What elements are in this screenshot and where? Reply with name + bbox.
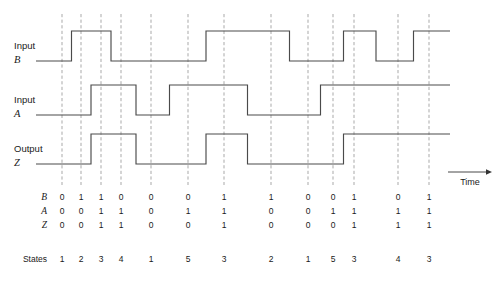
signal-kind-label-A: Input [14,94,35,105]
state-cell-8: 2 [269,254,274,264]
table-cell-Z-6: 0 [186,220,191,230]
table-cell-B-2: 1 [79,192,84,202]
table-cell-Z-2: 0 [79,220,84,230]
table-cell-B-9: 0 [306,192,311,202]
table-cell-B-11: 1 [352,192,357,202]
table-row-label-A: A [40,206,47,216]
state-cell-4: 4 [119,254,124,264]
table-cell-A-10: 1 [331,206,336,216]
table-cell-A-3: 1 [99,206,104,216]
table-cell-B-13: 1 [427,192,432,202]
time-axis-label: Time [460,177,480,187]
table-row-label-B: B [41,192,47,202]
table-cell-A-9: 0 [306,206,311,216]
table-cell-Z-3: 1 [99,220,104,230]
table-cell-B-10: 0 [331,192,336,202]
state-cell-13: 3 [427,254,432,264]
table-cell-B-5: 0 [149,192,154,202]
state-cell-5: 1 [149,254,154,264]
table-cell-Z-8: 0 [269,220,274,230]
states-row-label: States [23,254,47,264]
table-cell-B-4: 0 [119,192,124,202]
state-cell-9: 1 [306,254,311,264]
table-cell-Z-5: 0 [149,220,154,230]
state-cell-10: 5 [331,254,336,264]
state-cell-3: 3 [99,254,104,264]
table-cell-A-11: 1 [352,206,357,216]
table-cell-B-12: 0 [396,192,401,202]
table-cell-Z-12: 1 [396,220,401,230]
figure-background [0,0,502,285]
table-cell-Z-10: 0 [331,220,336,230]
table-cell-Z-4: 1 [119,220,124,230]
timing-diagram: InputBInputAOutputZ B0110001100101A00110… [0,0,502,285]
table-cell-A-13: 1 [427,206,432,216]
signal-kind-label-Z: Output [14,143,43,154]
state-cell-2: 2 [79,254,84,264]
signal-kind-label-B: Input [14,40,35,51]
state-cell-11: 3 [352,254,357,264]
table-cell-A-7: 1 [222,206,227,216]
table-cell-A-5: 0 [149,206,154,216]
table-cell-A-6: 1 [186,206,191,216]
table-cell-A-1: 0 [60,206,65,216]
table-cell-A-8: 0 [269,206,274,216]
table-cell-Z-7: 1 [222,220,227,230]
state-cell-7: 3 [222,254,227,264]
table-cell-B-1: 0 [60,192,65,202]
table-cell-A-12: 1 [396,206,401,216]
table-cell-Z-13: 1 [427,220,432,230]
table-cell-B-7: 1 [222,192,227,202]
table-cell-Z-9: 0 [306,220,311,230]
table-cell-B-6: 0 [186,192,191,202]
table-cell-B-8: 1 [269,192,274,202]
table-cell-Z-1: 0 [60,220,65,230]
table-cell-Z-11: 1 [352,220,357,230]
signal-name-label-B: B [14,54,21,65]
table-cell-A-4: 1 [119,206,124,216]
signal-name-label-A: A [13,108,21,119]
state-cell-12: 4 [396,254,401,264]
signal-name-label-Z: Z [14,157,20,168]
table-cell-A-2: 0 [79,206,84,216]
state-cell-1: 1 [60,254,65,264]
state-cell-6: 5 [186,254,191,264]
table-row-label-Z: Z [42,220,48,230]
table-cell-B-3: 1 [99,192,104,202]
